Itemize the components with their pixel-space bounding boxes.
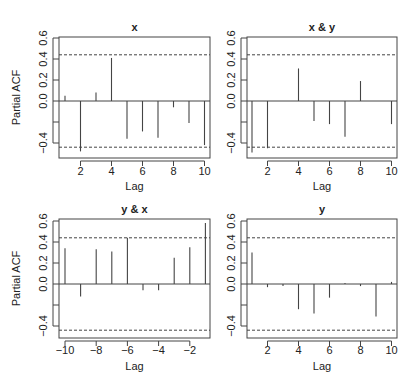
panel-title: y: [319, 203, 326, 215]
y-tick-label: 0.0: [37, 93, 49, 108]
y-tick-label: 0.6: [225, 30, 237, 45]
x-tick-label: 10: [385, 165, 397, 177]
y-tick-label: 0.6: [225, 213, 237, 228]
x-tick-label: 6: [326, 344, 332, 356]
panel-x: −0.40.00.20.40.6246810xLagPartial ACF: [10, 21, 211, 192]
y-axis-label: Partial ACF: [10, 250, 22, 306]
x-tick-label: −4: [152, 344, 165, 356]
y-tick-label: −0.4: [37, 132, 49, 154]
x-tick-label: −2: [184, 344, 197, 356]
y-tick-label: −0.4: [37, 315, 49, 337]
x-tick-label: 2: [77, 165, 83, 177]
y-tick-label: 0.6: [37, 30, 49, 45]
y-tick-label: −0.4: [225, 132, 237, 154]
x-axis-label: Lag: [313, 180, 331, 192]
y-tick-label: 0.0: [225, 276, 237, 291]
x-axis-label: Lag: [313, 360, 331, 372]
panel-x-and-y: −0.40.00.20.40.6246810x & yLag: [225, 21, 398, 192]
y-tick-label: 0.2: [225, 72, 237, 87]
x-axis-label: Lag: [125, 180, 143, 192]
y-tick-label: 0.6: [37, 213, 49, 228]
x-axis-label: Lag: [125, 360, 143, 372]
y-tick-label: 0.4: [37, 234, 49, 249]
y-tick-label: 0.4: [225, 51, 237, 66]
y-tick-label: 0.2: [37, 72, 49, 87]
x-tick-label: 4: [295, 344, 301, 356]
x-tick-label: 2: [264, 165, 270, 177]
x-tick-label: 4: [295, 165, 301, 177]
panel-title: x & y: [309, 21, 336, 33]
y-axis-label: Partial ACF: [10, 69, 22, 125]
y-tick-label: −0.4: [225, 315, 237, 337]
panel-y: −0.40.00.20.40.6246810yLag: [225, 203, 398, 372]
x-tick-label: 10: [385, 344, 397, 356]
x-tick-label: 4: [108, 165, 114, 177]
x-tick-label: 8: [357, 165, 363, 177]
x-tick-label: −8: [90, 344, 103, 356]
plot-frame: [247, 219, 397, 338]
x-tick-label: −6: [121, 344, 134, 356]
x-tick-label: 10: [198, 165, 210, 177]
plot-frame: [59, 219, 210, 338]
x-tick-label: 6: [326, 165, 332, 177]
x-tick-label: 8: [357, 344, 363, 356]
panel-y-and-x: −0.40.00.20.40.6−10−8−6−4−2y & xLagParti…: [10, 203, 210, 372]
y-tick-label: 0.4: [37, 51, 49, 66]
y-tick-label: 0.2: [225, 255, 237, 270]
x-tick-label: 6: [139, 165, 145, 177]
y-tick-label: 0.0: [225, 93, 237, 108]
y-tick-label: 0.4: [225, 234, 237, 249]
x-tick-label: 8: [170, 165, 176, 177]
x-tick-label: −10: [56, 344, 75, 356]
panel-title: x: [131, 21, 138, 33]
x-tick-label: 2: [264, 344, 270, 356]
pacf-figure: −0.40.00.20.40.6246810xLagPartial ACF−0.…: [0, 0, 418, 389]
panel-title: y & x: [121, 203, 148, 215]
y-tick-label: 0.0: [37, 276, 49, 291]
y-tick-label: 0.2: [37, 255, 49, 270]
